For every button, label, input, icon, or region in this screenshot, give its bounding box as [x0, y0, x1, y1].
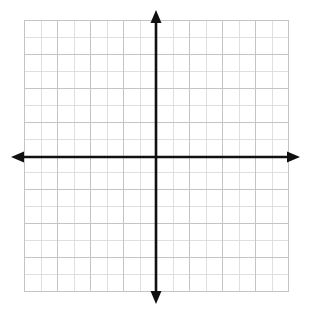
coordinate-plane-figure — [0, 0, 309, 315]
graph-svg — [0, 0, 309, 315]
